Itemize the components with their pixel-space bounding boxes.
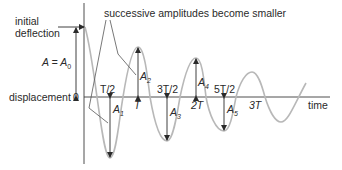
a4-label: A4 [197,76,209,90]
annotation-text: successive amplitudes become smaller [104,7,287,19]
damped-wave-curve [85,27,306,158]
tick-label: T/2 [100,83,115,95]
damped-oscillation-diagram: successive amplitudes become smaller ini… [0,0,342,170]
tick-label: 3T [249,99,263,111]
tick-label: 2T [190,99,205,111]
x-axis-label: time [308,99,328,111]
a3-label: A3 [169,106,181,120]
initial-label-line1: initial [15,15,39,27]
a0-label: A = A0 [41,56,71,70]
y-axis-label: displacement [9,91,71,103]
tick-label: T [134,99,142,111]
origin-label: 0 [73,91,79,103]
tick-label: 3T/2 [157,83,178,95]
initial-label-line2: deflection [15,27,60,39]
tick-label: 5T/2 [214,83,235,95]
a2-label: A2 [139,70,151,84]
leader-line-a2 [110,20,136,75]
a5-label: A5 [226,103,238,117]
